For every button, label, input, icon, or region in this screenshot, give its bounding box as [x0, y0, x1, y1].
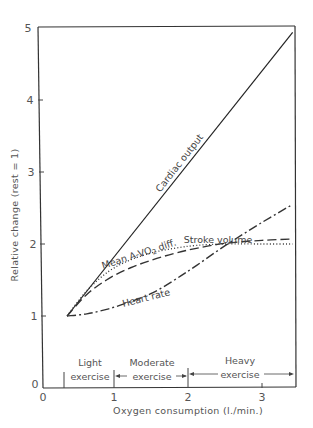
cardiac-output-line: [67, 32, 293, 316]
x-tick-3: 3: [259, 391, 266, 404]
y-tick-2: 2: [30, 238, 37, 251]
cardiac-output-label: Cardiac output: [153, 132, 205, 194]
y-tick-1: 1: [31, 310, 38, 323]
zone-moderate-label-1: Moderate: [129, 357, 174, 368]
x-axis-title: Oxygen consumption (l./min.): [113, 405, 263, 416]
exercise-zones: Light exercise Moderate exercise Heavy e…: [64, 355, 294, 388]
curves: [67, 32, 293, 316]
chart: 5 4 3 2 1 0 Relative change (rest = 1) 0…: [0, 0, 313, 428]
stroke-volume-line: [67, 244, 293, 316]
zone-heavy-label-1: Heavy: [225, 355, 255, 366]
y-tick-0: 0: [32, 378, 39, 391]
stroke-volume-label: Stroke volume: [184, 234, 253, 245]
y-axis-title: Relative change (rest = 1): [9, 149, 20, 282]
x-tick-2: 2: [185, 391, 192, 404]
x-tick-0: 0: [40, 391, 47, 404]
plot-frame: [38, 26, 296, 388]
zone-light-label-2: exercise: [70, 371, 109, 382]
zone-light-label-1: Light: [78, 357, 102, 368]
heart-rate-label: Heart rate: [121, 286, 171, 309]
x-tick-1: 1: [111, 391, 118, 404]
y-tick-4: 4: [27, 94, 34, 107]
zone-heavy-label-2: exercise: [220, 369, 259, 380]
y-tick-5: 5: [25, 22, 32, 35]
zone-moderate-label-2: exercise: [132, 371, 171, 382]
y-tick-3: 3: [28, 166, 35, 179]
mean-avo2-diff-label: Mean A-VO2 diff.: [100, 236, 178, 272]
